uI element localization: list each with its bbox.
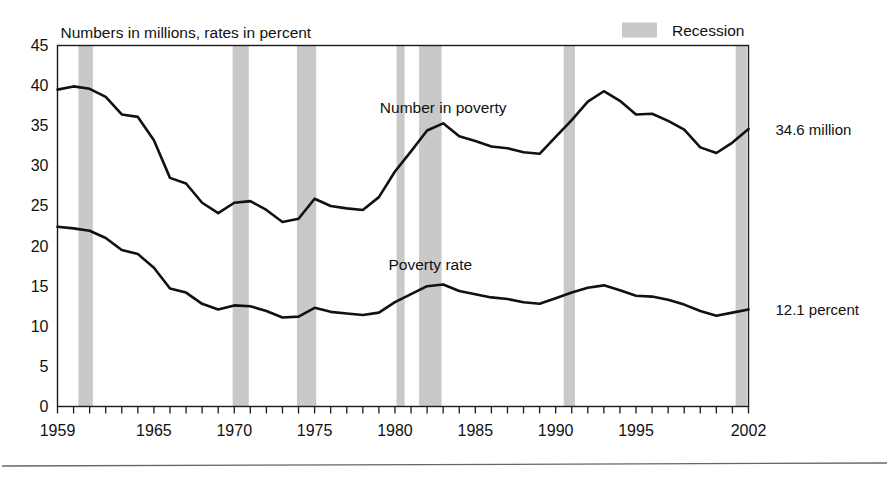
x-axis-tick-label: 2002 bbox=[731, 422, 767, 439]
x-axis-tick-label: 1995 bbox=[618, 422, 654, 439]
x-axis-tick-label: 1990 bbox=[538, 422, 574, 439]
poverty-chart-figure: 0510152025303540451959196519701975198019… bbox=[0, 0, 889, 479]
x-axis-tick-label: 1970 bbox=[216, 422, 252, 439]
y-axis-tick-label: 10 bbox=[31, 318, 49, 335]
chart-title: Numbers in millions, rates in percent bbox=[61, 24, 312, 41]
recession-band bbox=[564, 46, 575, 407]
y-axis-tick-label: 15 bbox=[31, 278, 49, 295]
series-label-poverty-rate: Poverty rate bbox=[389, 256, 473, 273]
recession-band bbox=[78, 46, 92, 407]
x-axis-tick-label: 1980 bbox=[377, 422, 413, 439]
end-label-poverty-rate: 12.1 percent bbox=[776, 301, 860, 318]
recession-band bbox=[736, 46, 747, 407]
y-axis-tick-label: 0 bbox=[40, 398, 49, 415]
recession-band bbox=[297, 46, 316, 407]
y-axis-tick-label: 40 bbox=[31, 77, 49, 94]
legend-recession-label: Recession bbox=[672, 22, 744, 39]
x-axis-tick-label: 1965 bbox=[136, 422, 172, 439]
x-axis-tick-label: 1959 bbox=[40, 422, 76, 439]
end-label-number-in-poverty: 34.6 million bbox=[776, 121, 852, 138]
y-axis-tick-label: 20 bbox=[31, 238, 49, 255]
bottom-divider bbox=[2, 463, 887, 466]
y-axis-tick-label: 25 bbox=[31, 197, 49, 214]
chart-canvas: 0510152025303540451959196519701975198019… bbox=[0, 0, 889, 479]
legend-recession-swatch bbox=[622, 23, 657, 38]
x-axis-tick-label: 1975 bbox=[297, 422, 333, 439]
series-label-number-in-poverty: Number in poverty bbox=[380, 99, 507, 116]
recession-band bbox=[233, 46, 249, 407]
y-axis-tick-label: 5 bbox=[40, 358, 49, 375]
y-axis-tick-label: 45 bbox=[31, 37, 49, 54]
y-axis-tick-label: 35 bbox=[31, 117, 49, 134]
x-axis-tick-label: 1985 bbox=[458, 422, 494, 439]
y-axis-tick-label: 30 bbox=[31, 157, 49, 174]
